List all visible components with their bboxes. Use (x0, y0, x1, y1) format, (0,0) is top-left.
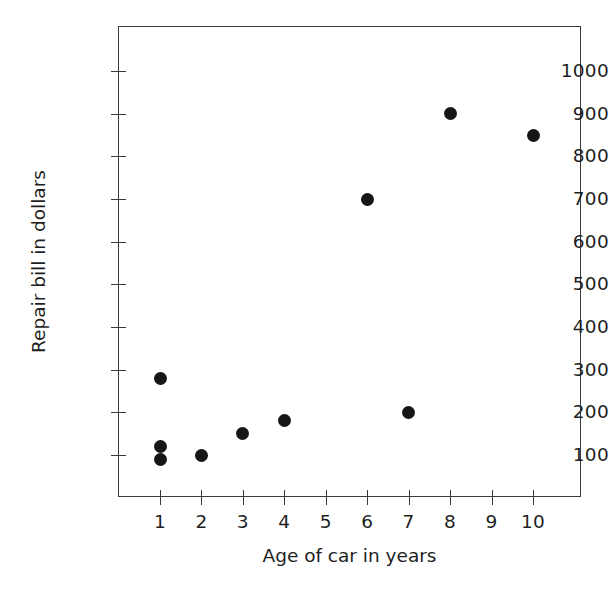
y-axis-tick (111, 327, 126, 328)
y-axis-tick-label: 200 (503, 403, 609, 422)
data-point (527, 129, 540, 142)
scatter-plot-figure: 1002003004005006007008009001000 12345678… (0, 0, 609, 591)
data-point (361, 193, 374, 206)
y-axis-tick (111, 242, 126, 243)
x-axis-tick (492, 490, 493, 505)
y-axis-tick-label: 600 (503, 232, 609, 251)
y-axis-tick (111, 370, 126, 371)
y-axis-tick-label: 300 (503, 360, 609, 379)
x-axis-tick-label: 1 (140, 513, 180, 532)
x-axis-tick (284, 490, 285, 505)
x-axis-tick (160, 490, 161, 505)
x-axis-tick-label: 6 (347, 513, 387, 532)
x-axis-tick-label: 5 (306, 513, 346, 532)
y-axis-tick-label: 100 (503, 446, 609, 465)
y-axis-tick (111, 71, 126, 72)
y-axis-tick-label: 800 (503, 147, 609, 166)
x-axis-tick-label: 4 (264, 513, 304, 532)
y-axis-tick (111, 284, 126, 285)
x-axis-tick (533, 490, 534, 505)
data-point (154, 453, 167, 466)
x-axis-tick-label: 7 (389, 513, 429, 532)
y-axis-tick-label: 500 (503, 275, 609, 294)
x-axis-tick (243, 490, 244, 505)
y-axis-tick (111, 114, 126, 115)
x-axis-title: Age of car in years (118, 545, 581, 566)
y-axis-tick (111, 156, 126, 157)
x-axis-tick-label: 8 (430, 513, 470, 532)
x-axis-tick-label: 2 (181, 513, 221, 532)
y-axis-tick (111, 455, 126, 456)
x-axis-tick (201, 490, 202, 505)
x-axis-tick-label: 9 (472, 513, 512, 532)
x-axis-tick (367, 490, 368, 505)
data-point (195, 449, 208, 462)
data-point (154, 372, 167, 385)
x-axis-tick (409, 490, 410, 505)
y-axis-tick (111, 412, 126, 413)
x-axis-tick (450, 490, 451, 505)
y-axis-title: Repair bill in dollars (26, 26, 52, 497)
x-axis-tick (326, 490, 327, 505)
data-point (444, 107, 457, 120)
y-axis-tick-label: 1000 (503, 62, 609, 81)
x-axis-tick-label: 3 (223, 513, 263, 532)
plot-area-frame (118, 26, 581, 497)
y-axis-tick (111, 199, 126, 200)
y-axis-tick-label: 900 (503, 104, 609, 123)
y-axis-tick-label: 700 (503, 190, 609, 209)
y-axis-tick-label: 400 (503, 318, 609, 337)
data-point (402, 406, 415, 419)
data-point (154, 440, 167, 453)
x-axis-tick-label: 10 (513, 513, 553, 532)
